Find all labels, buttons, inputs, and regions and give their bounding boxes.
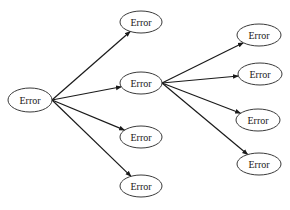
edge-n2-to-n8 xyxy=(162,83,248,155)
node-label: Error xyxy=(247,115,269,126)
node-n6: Error xyxy=(238,63,282,85)
edge-n0-to-n1 xyxy=(52,31,130,100)
node-label: Error xyxy=(130,132,152,143)
node-n7: Error xyxy=(236,109,280,131)
node-n1: Error xyxy=(120,11,162,33)
node-label: Error xyxy=(130,78,152,89)
edge-n0-to-n4 xyxy=(52,100,131,176)
node-n2: Error xyxy=(120,72,162,94)
node-label: Error xyxy=(248,159,270,170)
node-n3: Error xyxy=(120,126,162,148)
node-n0: Error xyxy=(8,88,52,112)
node-label: Error xyxy=(19,95,41,106)
nodes-layer: ErrorErrorErrorErrorErrorErrorErrorError… xyxy=(8,11,282,197)
node-label: Error xyxy=(130,17,152,28)
node-label: Error xyxy=(248,30,270,41)
node-label: Error xyxy=(130,181,152,192)
error-tree-diagram: ErrorErrorErrorErrorErrorErrorErrorError… xyxy=(0,0,290,210)
edge-n0-to-n2 xyxy=(52,87,121,100)
node-n5: Error xyxy=(237,24,281,46)
edges-layer xyxy=(52,31,248,176)
node-n4: Error xyxy=(120,175,162,197)
node-n8: Error xyxy=(237,153,281,175)
edge-n2-to-n7 xyxy=(162,83,241,113)
edge-n0-to-n3 xyxy=(52,100,125,130)
node-label: Error xyxy=(249,69,271,80)
